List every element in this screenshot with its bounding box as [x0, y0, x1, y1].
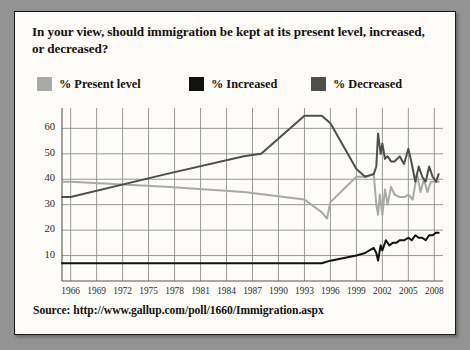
legend-item-decreased: % Decreased: [311, 75, 402, 93]
legend-swatch-present-level: [37, 77, 52, 91]
chart-plot-area: 102030405060 196619691972197519781981198…: [15, 100, 457, 305]
legend-swatch-increased: [189, 77, 204, 91]
legend-swatch-decreased: [311, 77, 326, 91]
y-axis-tick-label: 20: [33, 223, 55, 234]
legend-label-decreased: % Decreased: [333, 77, 402, 92]
legend-item-increased: % Increased: [189, 75, 277, 93]
page-title: In your view, should immigration be kept…: [32, 23, 432, 58]
panel-inner: In your view, should immigration be kept…: [15, 12, 455, 334]
chart-legend: % Present level % Increased % Decreased: [37, 75, 437, 95]
y-axis-tick-label: 60: [33, 121, 55, 132]
legend-item-present-level: % Present level: [37, 75, 141, 93]
line-chart: [15, 100, 457, 305]
legend-label-present-level: % Present level: [59, 77, 141, 92]
y-axis-tick-label: 40: [33, 172, 55, 183]
y-axis-tick-label: 10: [33, 249, 55, 260]
x-axis-tick-label: 2008: [419, 286, 449, 296]
y-axis-tick-label: 50: [33, 147, 55, 158]
source-caption: Source: http://www.gallup.com/poll/1660/…: [33, 304, 324, 317]
legend-label-increased: % Increased: [211, 77, 277, 92]
chart-panel: In your view, should immigration be kept…: [14, 11, 456, 335]
y-axis-tick-label: 30: [33, 198, 55, 209]
